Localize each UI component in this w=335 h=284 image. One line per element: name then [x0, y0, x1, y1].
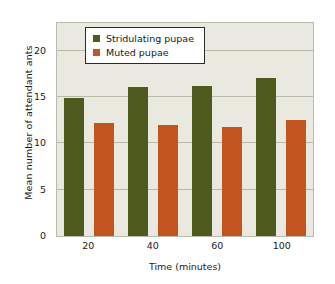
legend-label: Muted pupae	[106, 47, 169, 58]
x-tick-label: 40	[121, 240, 186, 251]
legend-item: Muted pupae	[93, 47, 194, 58]
y-axis-ticks: 05101520	[0, 0, 52, 284]
legend-item: Stridulating pupae	[93, 33, 194, 44]
bar	[128, 87, 148, 236]
legend-swatch-icon	[93, 49, 100, 56]
y-tick-label: 20	[34, 44, 46, 55]
x-axis-label: Time (minutes)	[56, 261, 314, 272]
x-tick-label: 20	[56, 240, 121, 251]
y-tick-label: 0	[40, 230, 46, 241]
bar	[222, 127, 242, 236]
bar	[286, 120, 306, 236]
bar-chart: Mean number of attendant ants 05101520 2…	[0, 0, 335, 284]
bar-group	[256, 23, 306, 236]
bar	[192, 86, 212, 236]
x-axis-ticks: 204060100	[56, 240, 314, 251]
x-tick-label: 100	[250, 240, 315, 251]
legend: Stridulating pupaeMuted pupae	[85, 27, 205, 64]
y-tick-label: 5	[40, 183, 46, 194]
y-tick-label: 10	[34, 137, 46, 148]
bar	[94, 123, 114, 236]
x-tick-label: 60	[185, 240, 250, 251]
legend-label: Stridulating pupae	[106, 33, 194, 44]
y-tick-label: 15	[34, 91, 46, 102]
legend-swatch-icon	[93, 35, 100, 42]
bar	[64, 98, 84, 236]
bar	[158, 125, 178, 236]
bar	[256, 78, 276, 236]
